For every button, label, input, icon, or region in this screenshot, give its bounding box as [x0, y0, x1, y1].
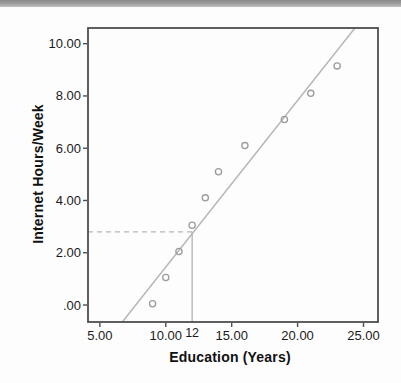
x-tick-label: 25.00: [347, 328, 380, 343]
data-point: [163, 274, 169, 280]
data-point: [334, 63, 340, 69]
x-tick-label: 20.00: [281, 328, 314, 343]
scanned-chart-page: 5.0010.0015.0020.0025.00.002.004.006.008…: [0, 0, 401, 383]
y-tick-label: 4.00: [56, 193, 81, 208]
data-point: [215, 169, 221, 175]
data-point: [308, 90, 314, 96]
data-point: [149, 301, 155, 307]
y-tick-label: 8.00: [56, 88, 81, 103]
y-tick-label: 6.00: [56, 141, 81, 156]
x-tick-label: 15.00: [215, 328, 248, 343]
y-tick-label: .00: [63, 298, 81, 313]
data-point: [242, 143, 248, 149]
x-tick-label: 10.00: [149, 328, 182, 343]
y-axis-title: Internet Hours/Week: [30, 69, 46, 279]
y-tick-label: 10.00: [48, 36, 81, 51]
data-point: [202, 195, 208, 201]
regression-line: [122, 28, 355, 322]
x-axis-title: Education (Years): [130, 349, 330, 365]
data-point: [189, 222, 195, 228]
plot-frame: [88, 28, 378, 322]
x-tick-label: 5.00: [87, 328, 112, 343]
prediction-x-label: 12: [185, 326, 199, 340]
scatterplot-canvas: 5.0010.0015.0020.0025.00.002.004.006.008…: [0, 0, 401, 383]
y-tick-label: 2.00: [56, 245, 81, 260]
